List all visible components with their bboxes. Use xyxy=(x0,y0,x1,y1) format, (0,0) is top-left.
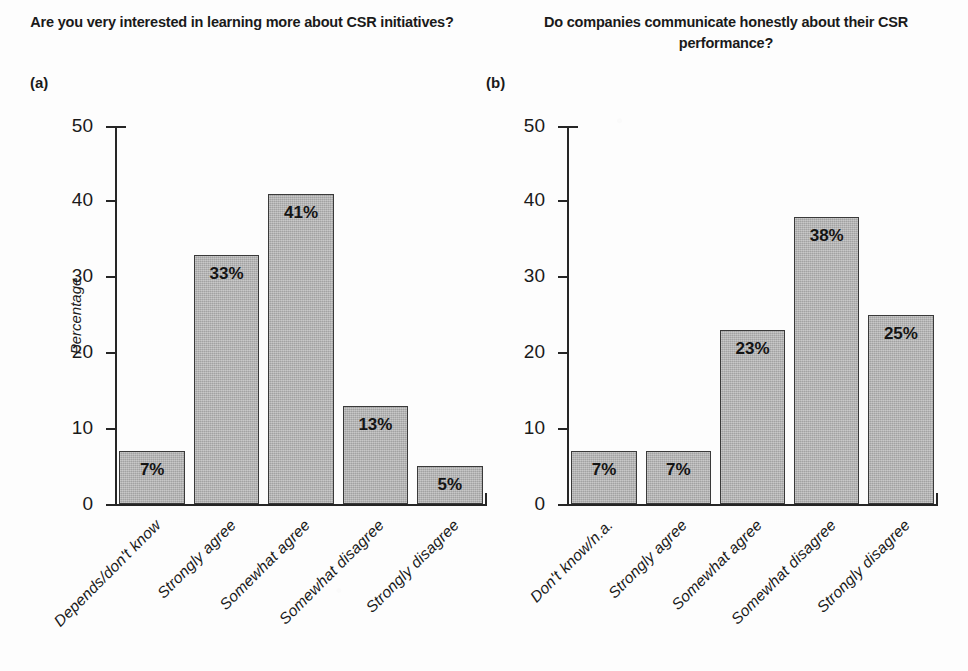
bar-b-1[interactable]: 7% xyxy=(646,451,711,504)
y-tick-40-b: 40 xyxy=(558,200,567,202)
bar-value-b-3: 38% xyxy=(795,226,858,246)
x-label-a-0: Depends/don't know xyxy=(51,516,165,630)
bar-b-4[interactable]: 25% xyxy=(868,315,933,504)
bar-value-a-3: 13% xyxy=(344,415,407,435)
y-tick-label-20-a: 20 xyxy=(72,341,93,363)
y-tick-label-0-a: 0 xyxy=(82,493,93,515)
chart-title-a: Are you very interested in learning more… xyxy=(0,12,484,33)
plot-area-a: Percentage 0 10 20 30 40 50 7% xyxy=(115,126,487,506)
bar-a-3[interactable]: 13% xyxy=(343,406,408,504)
bar-value-b-1: 7% xyxy=(647,460,710,480)
bar-value-b-4: 25% xyxy=(869,324,932,344)
y-tick-40-a: 40 xyxy=(106,200,115,202)
y-tick-50-b: 50 xyxy=(558,126,567,128)
y-tick-label-10-b: 10 xyxy=(524,417,545,439)
bar-slot-b-0: 7% xyxy=(567,126,641,504)
bar-b-2[interactable]: 23% xyxy=(720,330,785,504)
y-tick-label-50-a: 50 xyxy=(72,115,93,137)
bar-slot-a-1: 33% xyxy=(189,126,263,504)
y-tick-label-10-a: 10 xyxy=(72,417,93,439)
bar-slot-b-1: 7% xyxy=(641,126,715,504)
bar-a-1[interactable]: 33% xyxy=(194,255,259,504)
bar-a-4[interactable]: 5% xyxy=(417,466,482,504)
y-tick-50-a: 50 xyxy=(106,126,115,128)
y-tick-label-40-b: 40 xyxy=(524,189,545,211)
bar-slot-a-3: 13% xyxy=(338,126,412,504)
x-axis-labels-a: Depends/don't know Strongly agree Somewh… xyxy=(115,506,487,666)
y-tick-30-b: 30 xyxy=(558,276,567,278)
bar-value-b-0: 7% xyxy=(572,460,635,480)
bar-group-b: 7% 7% 23% 38% 25% xyxy=(567,126,938,504)
bar-slot-a-2: 41% xyxy=(264,126,338,504)
chart-title-b: Do companies communicate honestly about … xyxy=(484,12,968,54)
bar-slot-a-0: 7% xyxy=(115,126,189,504)
y-tick-label-40-a: 40 xyxy=(72,189,93,211)
bar-a-0[interactable]: 7% xyxy=(119,451,184,504)
y-tick-0-a: 0 xyxy=(106,504,115,506)
x-axis-labels-b: Don't know/n.a. Strongly agree Somewhat … xyxy=(567,506,938,666)
panel-label-a: (a) xyxy=(30,74,48,91)
bar-slot-b-3: 38% xyxy=(790,126,864,504)
y-tick-label-30-b: 30 xyxy=(524,265,545,287)
panel-label-b: (b) xyxy=(486,74,505,91)
bar-slot-b-4: 25% xyxy=(864,126,938,504)
bar-b-3[interactable]: 38% xyxy=(794,217,859,504)
y-tick-20-b: 20 xyxy=(558,352,567,354)
y-tick-20-a: 20 xyxy=(106,352,115,354)
chart-panel-a: Are you very interested in learning more… xyxy=(0,0,484,671)
bar-value-a-2: 41% xyxy=(269,203,332,223)
bar-value-b-2: 23% xyxy=(721,339,784,359)
plot-area-b: 0 10 20 30 40 50 7% 7% xyxy=(567,126,938,506)
bar-value-a-1: 33% xyxy=(195,264,258,284)
bar-a-2[interactable]: 41% xyxy=(268,194,333,504)
y-tick-label-0-b: 0 xyxy=(534,493,545,515)
y-tick-label-50-b: 50 xyxy=(524,115,545,137)
y-tick-label-20-b: 20 xyxy=(524,341,545,363)
y-tick-10-a: 10 xyxy=(106,428,115,430)
x-label-b-0: Don't know/n.a. xyxy=(527,516,617,606)
y-tick-0-b: 0 xyxy=(558,504,567,506)
bar-value-a-4: 5% xyxy=(418,475,481,495)
bar-slot-a-4: 5% xyxy=(413,126,487,504)
bar-group-a: 7% 33% 41% 13% 5% xyxy=(115,126,487,504)
chart-panel-b: Do companies communicate honestly about … xyxy=(484,0,968,671)
bar-b-0[interactable]: 7% xyxy=(571,451,636,504)
y-tick-label-30-a: 30 xyxy=(72,265,93,287)
y-tick-30-a: 30 xyxy=(106,276,115,278)
y-tick-10-b: 10 xyxy=(558,428,567,430)
bar-value-a-0: 7% xyxy=(120,460,183,480)
bar-slot-b-2: 23% xyxy=(715,126,789,504)
